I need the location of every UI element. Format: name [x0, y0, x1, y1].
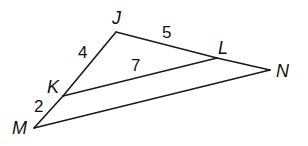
measure-kl: 7	[131, 56, 140, 75]
segment-mn	[34, 70, 270, 128]
vertex-label-j: J	[111, 8, 122, 28]
vertex-label-n: N	[276, 61, 290, 81]
vertex-label-k: K	[47, 77, 60, 97]
segment-ln	[217, 58, 270, 70]
vertex-label-l: L	[218, 38, 228, 58]
measure-jl: 5	[162, 23, 171, 42]
geometry-diagram: J K M L N 4 5 7 2	[0, 0, 308, 146]
measure-km: 2	[34, 97, 43, 116]
segment-jk	[63, 32, 116, 96]
vertex-label-m: M	[12, 118, 27, 138]
measure-jk: 4	[78, 43, 87, 62]
